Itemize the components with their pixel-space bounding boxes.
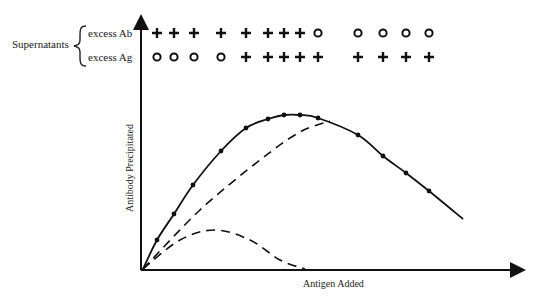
supernatants-label: Supernatants (12, 38, 69, 50)
curly-brace (74, 26, 86, 66)
data-point (381, 154, 386, 159)
plus-symbol (401, 52, 411, 62)
plus-symbol (424, 52, 434, 62)
data-point (266, 117, 271, 122)
data-point (427, 189, 432, 194)
plus-symbol (263, 52, 273, 62)
excess-ab-symbol-row (152, 28, 433, 38)
data-point (172, 212, 177, 217)
data-point (155, 238, 160, 243)
dashed-component-curve-small (143, 230, 305, 269)
excess-ag-symbol-row (153, 52, 434, 62)
plus-symbol (353, 52, 363, 62)
plus-symbol (295, 28, 305, 38)
plus-symbol (279, 28, 289, 38)
plus-symbol (189, 28, 199, 38)
plus-symbol (216, 28, 226, 38)
plus-symbol (152, 28, 162, 38)
precipitation-curve (143, 115, 463, 269)
plus-symbol (241, 52, 251, 62)
circle-symbol (379, 29, 386, 36)
excess-ag-label: excess Ag (88, 51, 133, 63)
plus-symbol (263, 28, 273, 38)
plus-symbol (241, 28, 251, 38)
data-point (244, 126, 249, 131)
circle-symbol (354, 29, 361, 36)
data-point (316, 116, 321, 121)
plus-symbol (279, 52, 289, 62)
circle-symbol (402, 29, 409, 36)
data-points (155, 113, 432, 243)
y-axis-label: Antibody Precipitated (124, 124, 135, 212)
data-point (191, 183, 196, 188)
data-point (404, 171, 409, 176)
data-point (282, 113, 287, 118)
plus-symbol (378, 52, 388, 62)
data-point (356, 133, 361, 138)
data-point (298, 113, 303, 118)
circle-symbol (217, 53, 224, 60)
x-axis-label: Antigen Added (303, 278, 364, 289)
circle-symbol (170, 53, 177, 60)
circle-symbol (425, 29, 432, 36)
plus-symbol (295, 52, 305, 62)
circle-symbol (190, 53, 197, 60)
data-point (219, 149, 224, 154)
excess-ab-label: excess Ab (88, 27, 133, 39)
plus-symbol (313, 52, 323, 62)
circle-symbol (314, 29, 321, 36)
precipitin-curve-diagram: Supernatants excess Ab excess Ag Antibod… (0, 0, 543, 301)
circle-symbol (153, 53, 160, 60)
plus-symbol (169, 28, 179, 38)
